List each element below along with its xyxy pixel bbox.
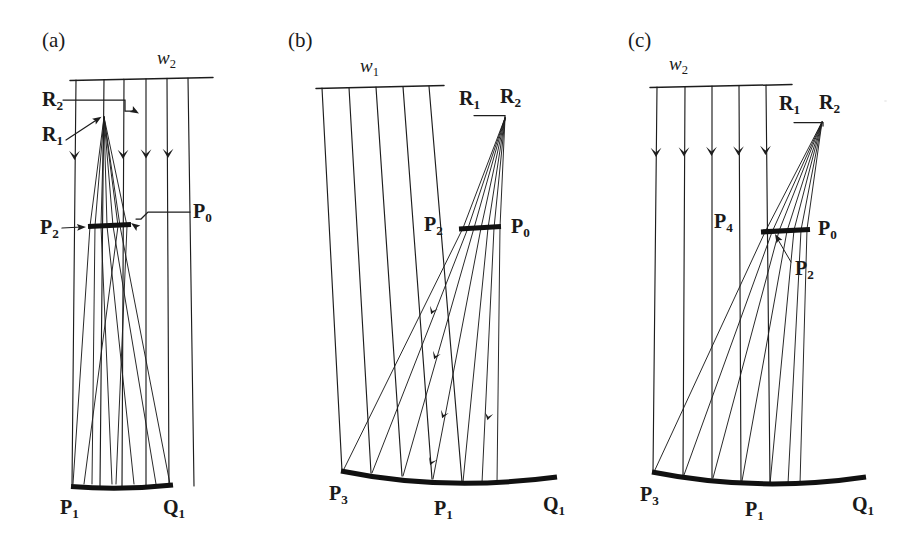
panel-c-P2-main: P [795,257,807,279]
panel-c-group [650,85,866,485]
panel-c-label-P3: P3 [640,484,659,507]
panel-b-ray-arrows [426,306,493,467]
panel-b-P3-sub: 3 [341,492,348,507]
panel-b-mirror-surface [341,471,557,483]
panel-a-label-P2: P2 [40,217,59,240]
panel-b-R2-main: R [500,85,514,107]
panel-a-R1-main: R [42,123,56,145]
panel-b-R1-sub: 1 [473,97,480,112]
panel-a-P0-main: P [193,200,205,222]
panel-c-P4-sub: 4 [726,220,733,235]
panel-a-P0-sub: 0 [205,210,212,225]
panel-b-P0-main: P [511,215,523,237]
panel-c-Q1-sub: 1 [868,503,875,518]
panel-a-label: (a) [42,30,65,51]
panel-c-label-R1: R1 [779,93,800,116]
panel-b-Q1-sub: 1 [559,503,566,518]
panel-b-aperture-label: w1 [360,56,379,78]
panel-a-P1-main: P [60,496,72,518]
panel-a-P1-sub: 1 [72,506,79,521]
panel-a-aperture-label: w2 [157,48,176,70]
panel-b-label-P0: P0 [511,216,530,239]
panel-b-label: (b) [288,30,313,51]
panel-c-aperture-line [650,85,792,88]
panel-c-label: (c) [628,30,651,51]
panel-c-R1-sub: 1 [793,102,800,117]
panel-b-R1-main: R [459,87,473,109]
panel-a-r1-leader [66,119,98,140]
panel-b-P3-main: P [329,482,341,504]
panel-b-focal-bar [459,227,501,230]
panel-c-label-P2: P2 [795,258,814,281]
panel-a-r2-arrow [130,106,141,116]
panel-c-r-segment [794,123,823,127]
panel-a-label-R1: R1 [42,124,63,147]
panel-c-P1-sub: 1 [757,508,764,523]
ray-diagram-canvas [0,0,913,544]
panel-c-P1-main: P [745,498,757,520]
panel-c-P0-sub: 0 [830,227,837,242]
panel-c-ray-arrows [651,146,771,157]
panel-b-aperture-sub: 1 [373,65,379,79]
panel-b-P2-sub: 2 [436,223,443,238]
panel-c-Q1-main: Q [852,493,868,515]
panel-b-label-R2: R2 [500,86,521,109]
panel-b-r-segment [474,116,505,121]
panel-c-label-P0: P0 [818,218,837,241]
panel-c-label-R2: R2 [819,92,840,115]
panel-b-label-Q1: Q1 [543,494,565,517]
panel-a-vertical-rays [72,78,194,486]
panel-c-p2-arrow [772,232,782,243]
panel-a-label-R2: R2 [42,89,63,112]
panel-a-r1-arrow [92,114,103,125]
panel-c-P3-sub: 3 [652,493,659,508]
panel-b-label-P2: P2 [424,214,443,237]
panel-b-label-P1: P1 [434,498,453,521]
panel-a-P2-main: P [40,216,52,238]
panel-b-label-R1: R1 [459,88,480,111]
panel-c-aperture-main: w [669,53,682,74]
panel-b-label-P3: P3 [329,483,348,506]
panel-a-focal-bar [88,225,131,227]
panel-b-group [316,86,557,485]
panel-b-R2-sub: 2 [514,95,521,110]
panel-a-ray-fan [73,117,170,484]
panel-b-Q1-main: Q [543,493,559,515]
panel-a-P2-sub: 2 [52,226,59,241]
scan-speck [884,100,887,102]
panel-b-ray-fan [343,118,505,484]
panel-a-r2-leader [63,100,136,111]
panel-a-aperture-main: w [157,47,170,68]
panel-c-focal-bar [761,230,810,233]
panel-c-P0-main: P [818,217,830,239]
panel-a-Q1-main: Q [163,496,179,518]
panel-b-P2-main: P [424,213,436,235]
panel-c-R1-main: R [779,92,793,114]
panel-c-P2-sub: 2 [807,267,814,282]
panel-c-P4-main: P [714,210,726,232]
panel-a-R1-sub: 1 [56,133,63,148]
panel-a-R2-main: R [42,88,56,110]
panel-a-label-Q1: Q1 [163,497,185,520]
panel-b-aperture-main: w [360,55,373,76]
panel-a-aperture-line [70,78,213,81]
panel-a-aperture-sub: 2 [170,57,176,71]
panel-c-label-P4: P4 [714,211,733,234]
panel-c-label-Q1: Q1 [852,494,874,517]
panel-c-aperture-label: w2 [669,54,688,76]
panel-a-ray-arrows [69,149,173,160]
panel-a-label-P0: P0 [193,201,212,224]
panel-a-p0-leader [136,212,190,219]
figure-root: (a) w2 R2 R1 P2 P0 P1 Q1 (b) w1 R1 R2 P2… [0,0,913,544]
panel-c-label-P1: P1 [745,499,764,522]
panel-c-R2-sub: 2 [833,101,840,116]
panel-a-group [62,78,213,489]
panel-b-P0-sub: 0 [523,225,530,240]
panel-b-P1-sub: 1 [446,507,453,522]
panel-b-aperture-line [316,86,444,89]
panel-b-P1-main: P [434,497,446,519]
panel-c-p2-leader [777,238,791,262]
panel-c-P3-main: P [640,483,652,505]
panel-c-aperture-sub: 2 [682,63,688,77]
panel-a-Q1-sub: 1 [179,506,186,521]
